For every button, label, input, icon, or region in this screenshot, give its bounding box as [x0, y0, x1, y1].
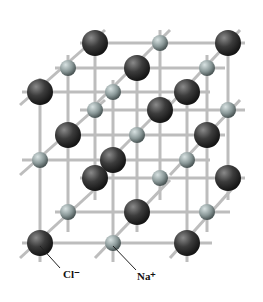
cl-ion [174, 230, 200, 256]
na-ion [129, 127, 145, 143]
cl-ion [147, 97, 173, 123]
na-ion [105, 84, 121, 100]
cl-ion [124, 55, 150, 81]
cl-ion [194, 122, 220, 148]
na-ion [60, 60, 76, 76]
cl-ion [215, 165, 241, 191]
cl-ion [124, 199, 150, 225]
cl-ion [82, 165, 108, 191]
na-leader-line [113, 246, 136, 270]
cl-ion [215, 30, 241, 56]
na-ion [87, 102, 103, 118]
na-ion [199, 60, 215, 76]
cl-ion [82, 30, 108, 56]
na-ion [32, 152, 48, 168]
cl-ion [27, 230, 53, 256]
cl-ion [55, 122, 81, 148]
crystal-lattice [0, 0, 263, 302]
na-ion [152, 35, 168, 51]
chloride-label: Cl⁻ [63, 268, 80, 281]
cl-ion [174, 79, 200, 105]
cl-ion [27, 79, 53, 105]
na-ion [199, 204, 215, 220]
na-ion [60, 204, 76, 220]
na-ion [152, 170, 168, 186]
sodium-label: Na⁺ [137, 270, 156, 283]
na-ion [179, 152, 195, 168]
na-ion [220, 102, 236, 118]
na-ion [105, 235, 121, 251]
